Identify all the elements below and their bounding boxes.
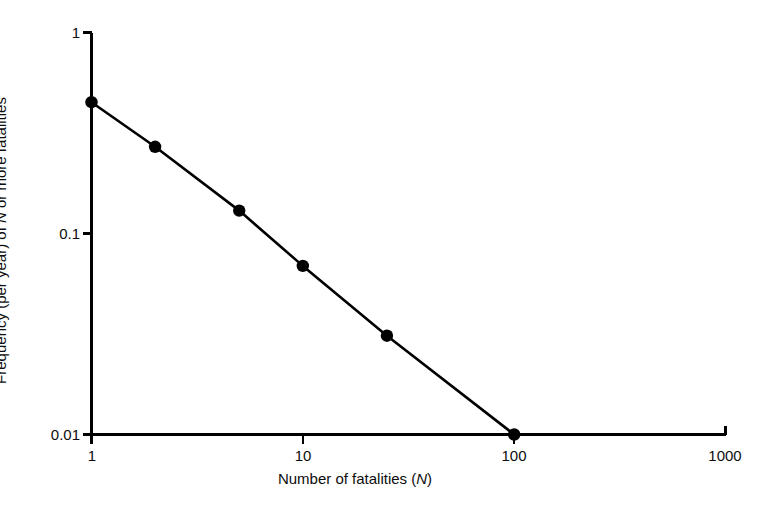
y-axis-title-post: or more fatalities [0,97,9,212]
y-tick-label-1: 1 [30,25,80,40]
x-tick-label-10: 10 [295,448,312,463]
y-axis-title-symbol: N [0,212,9,223]
y-axis-title: Frequency (per year) of N or more fatali… [0,97,9,384]
x-tick-label-1000: 1000 [708,448,741,463]
data-point-marker [233,204,245,216]
x-axis-title-close: ) [427,470,432,487]
data-point-marker [508,428,520,440]
x-tick-label-100: 100 [501,448,526,463]
plot-area [0,0,762,509]
y-tick-label-0-01: 0.01 [24,427,80,442]
data-point-marker [85,96,97,108]
x-tick-label-1: 1 [88,448,96,463]
y-tick-label-0-1: 0.1 [30,226,80,241]
data-point-marker [297,260,309,272]
x-axis-title: Number of fatalities (N) [278,470,432,487]
axes-group [92,33,726,435]
data-point-marker [381,330,393,342]
data-point-marker [149,141,161,153]
tick-marks-group [83,33,726,444]
fn-curve-figure: 1 0.1 0.01 1 10 100 1000 Number of fatal… [0,0,762,509]
data-series-group [85,96,520,441]
y-axis-title-pre: Frequency (per year) of [0,223,9,384]
x-axis-title-text: Number of fatalities ( [278,470,416,487]
x-axis-title-symbol: N [416,470,427,487]
